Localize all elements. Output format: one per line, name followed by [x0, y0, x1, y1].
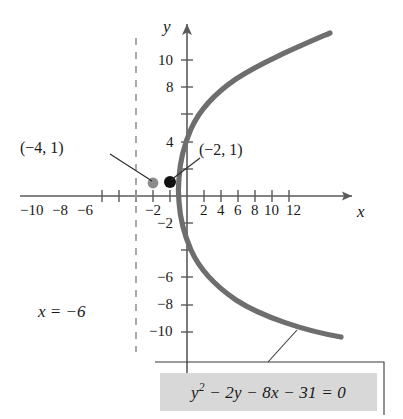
y-axis-label: y	[163, 18, 171, 35]
x-axis-label: x	[357, 203, 365, 220]
x-tick-label--10: −10	[20, 203, 43, 218]
y-tick-label--8: −8	[157, 297, 173, 312]
directrix-label: x = −6	[38, 303, 86, 320]
y-axis	[181, 24, 193, 388]
parabola-curve	[178, 33, 341, 337]
equation-rest: − 2y − 8x − 31 = 0	[205, 383, 346, 402]
y-tick-label--6: −6	[157, 270, 173, 285]
x-tick-label--8: −8	[52, 203, 68, 218]
y-tick-label-4: 4	[166, 135, 174, 150]
x-tick-label-12: 12	[286, 203, 301, 218]
x-tick-label-10: 10	[264, 203, 279, 218]
y-tick-label-10: 10	[158, 53, 173, 68]
y-tick-label--2: −2	[157, 216, 173, 231]
parabola-figure: −10 −8 −6 −2 2 4 6 8 10 12 x y 10 8 4 −2…	[0, 0, 403, 419]
x-tick-label-2: 2	[200, 203, 208, 218]
x-tick-label--6: −6	[77, 203, 93, 218]
x-tick-label-4: 4	[217, 203, 225, 218]
equation-text: y2 − 2y − 8x − 31 = 0	[191, 381, 346, 403]
vertex-leader-line	[110, 154, 152, 181]
equation-box: y2 − 2y − 8x − 31 = 0	[160, 373, 377, 411]
y-tick-label-8: 8	[166, 80, 174, 95]
x-axis	[20, 190, 352, 202]
x-tick-label-8: 8	[251, 203, 259, 218]
focus-leader-line	[171, 158, 200, 180]
y-tick-label--10: −10	[149, 324, 172, 339]
focus-point-label: (−2, 1)	[199, 142, 243, 158]
vertex-point-label: (−4, 1)	[20, 140, 64, 156]
x-tick-label-6: 6	[234, 203, 242, 218]
